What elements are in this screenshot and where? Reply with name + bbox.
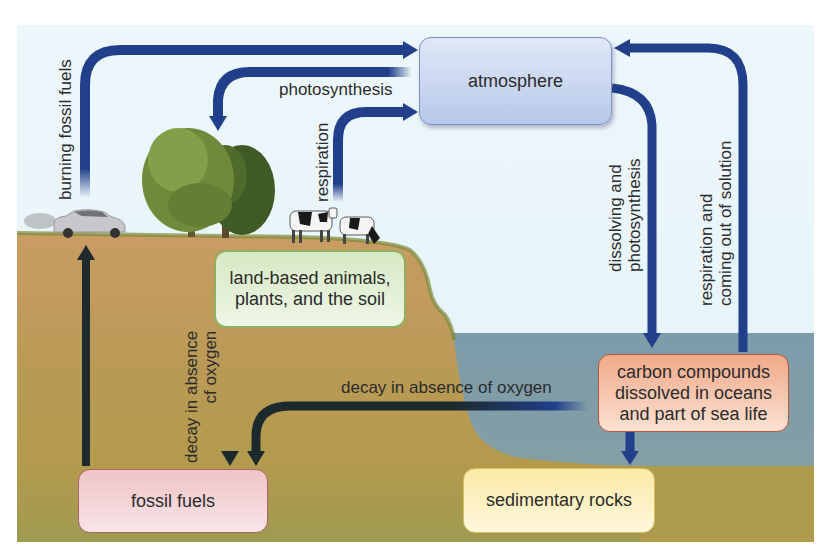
label-land-decay: decay in absence cf oxygen (182, 331, 220, 463)
label-ocean-release-line2: coming out of solution (716, 141, 735, 306)
atmosphere-label: atmosphere (468, 71, 563, 92)
label-land-decay-line1: decay in absence (182, 331, 201, 463)
label-photosynthesis: photosynthesis (279, 80, 392, 100)
label-respiration: respiration (313, 123, 332, 202)
ocean-label-line3: and part of sea life (615, 404, 772, 425)
fossil-fuels-label: fossil fuels (131, 491, 215, 512)
sedimentary-rocks-node: sedimentary rocks (463, 468, 655, 533)
land-node: land-based animals, plants, and the soil (214, 250, 406, 328)
label-ocean-release: respiration and coming out of solution (697, 141, 735, 306)
label-dissolving-line2: photosynthesis (625, 159, 644, 272)
label-ocean-release-line1: respiration and (697, 141, 716, 306)
land-label-line1: land-based animals, (229, 268, 390, 289)
ocean-carbon-node: carbon compounds dissolved in oceans and… (598, 354, 789, 432)
label-dissolving-line1: dissolving and (606, 159, 625, 272)
label-dissolving: dissolving and photosynthesis (606, 159, 644, 272)
ocean-label-line2: dissolved in oceans (615, 383, 772, 404)
land-label-line2: plants, and the soil (229, 289, 390, 310)
label-burning-fossil-fuels: burning fossil fuels (56, 59, 75, 200)
label-ocean-decay: decay in absence of oxygen (341, 378, 552, 398)
atmosphere-node: atmosphere (419, 37, 612, 125)
fossil-fuels-node: fossil fuels (78, 469, 268, 533)
sedimentary-rocks-label: sedimentary rocks (486, 490, 632, 511)
ocean-label-line1: carbon compounds (615, 362, 772, 383)
carbon-cycle-diagram: atmosphere land-based animals, plants, a… (0, 0, 837, 558)
label-land-decay-line2: cf oxygen (201, 331, 220, 463)
